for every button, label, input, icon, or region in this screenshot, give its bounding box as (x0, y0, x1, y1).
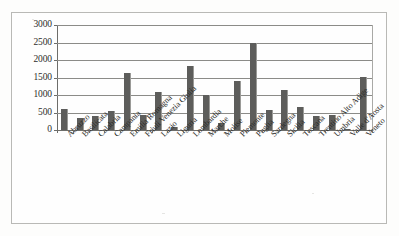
x-tick-mark (246, 130, 247, 133)
x-tick-mark (230, 130, 231, 133)
x-tick-mark (199, 130, 200, 133)
y-tick-mark-1500 (54, 78, 57, 79)
x-tick-mark (356, 130, 357, 133)
x-tick-mark (57, 130, 58, 133)
x-tick-mark (152, 130, 153, 133)
x-tick-mark (104, 130, 105, 133)
y-tick-mark-500 (54, 113, 57, 114)
x-tick-mark (278, 130, 279, 133)
x-tick-mark (325, 130, 326, 133)
y-tick-mark-2500 (54, 43, 57, 44)
x-tick-mark (372, 130, 373, 133)
y-tick-label: 500 (8, 108, 52, 118)
x-tick-mark (136, 130, 137, 133)
x-axis-labels: AbruzzoBasilicataCalabriaCampaniaEmilia … (57, 133, 387, 233)
x-tick-mark (89, 130, 90, 133)
chart-screenshot: AbruzzoBasilicataCalabriaCampaniaEmilia … (0, 0, 399, 236)
x-tick-mark (341, 130, 342, 133)
x-tick-mark (215, 130, 216, 133)
y-tick-label: 1500 (8, 73, 52, 83)
x-tick-mark (183, 130, 184, 133)
x-tick-mark (309, 130, 310, 133)
y-tick-mark-3000 (54, 25, 57, 26)
y-tick-label: 3000 (8, 20, 52, 30)
bar-slot (183, 25, 199, 130)
x-tick-mark (167, 130, 168, 133)
bar-slot (57, 25, 73, 130)
x-tick-mark (120, 130, 121, 133)
y-tick-label: 2500 (8, 38, 52, 48)
x-tick-mark (293, 130, 294, 133)
bar-slot (293, 25, 309, 130)
y-tick-mark-1000 (54, 95, 57, 96)
y-tick-label: 2000 (8, 55, 52, 65)
y-tick-mark-2000 (54, 60, 57, 61)
y-tick-label: 1000 (8, 90, 52, 100)
bar (61, 109, 68, 130)
y-tick-label: 0 (8, 125, 52, 135)
bar-slot (230, 25, 246, 130)
x-tick-mark (262, 130, 263, 133)
x-tick-mark (73, 130, 74, 133)
